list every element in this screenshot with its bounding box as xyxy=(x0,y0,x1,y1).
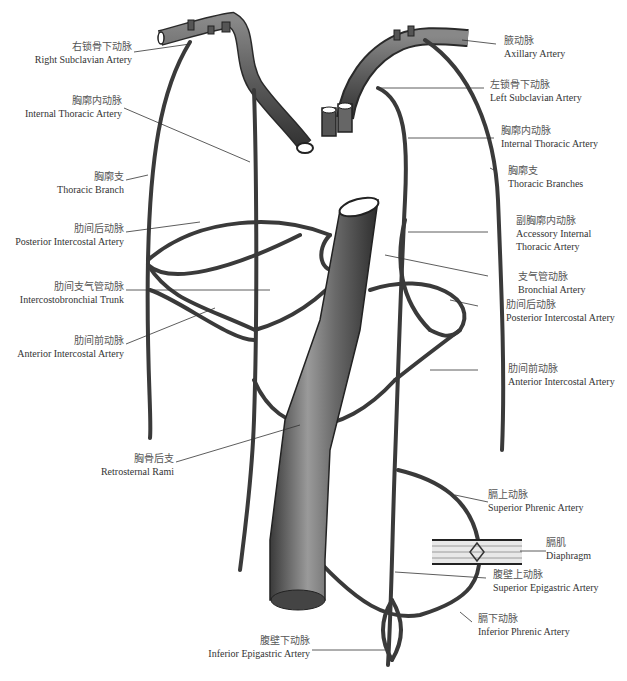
label-posterior-intercostal-artery-left: 肋间后动脉 Posterior Intercostal Artery xyxy=(0,222,124,248)
label-zh: 肋间支气管动脉 xyxy=(0,280,124,293)
label-left-subclavian-artery: 左锁骨下动脉 Left Subclavian Artery xyxy=(490,78,582,104)
label-en: Accessory Internal xyxy=(516,227,591,240)
label-zh: 右锁骨下动脉 xyxy=(18,40,132,53)
label-retrosternal-rami: 胸骨后支 Retrosternal Rami xyxy=(60,452,174,478)
label-en: Bronchial Artery xyxy=(518,283,585,296)
label-en: Superior Epigastric Artery xyxy=(493,581,599,594)
label-bronchial-artery: 支气管动脉 Bronchial Artery xyxy=(518,270,585,296)
label-anterior-intercostal-artery-left: 肋间前动脉 Anterior Intercostal Artery xyxy=(0,334,124,360)
label-zh: 腋动脉 xyxy=(504,34,565,47)
label-inferior-epigastric-artery: 腹壁下动脉 Inferior Epigastric Artery xyxy=(180,634,310,660)
label-zh: 胸廓内动脉 xyxy=(501,124,598,137)
label-en: Inferior Phrenic Artery xyxy=(478,625,570,638)
label-right-subclavian-artery: 右锁骨下动脉 Right Subclavian Artery xyxy=(18,40,132,66)
label-zh: 肋间后动脉 xyxy=(506,298,615,311)
label-inferior-phrenic-artery: 膈下动脉 Inferior Phrenic Artery xyxy=(478,612,570,638)
label-en-line2: Thoracic Artery xyxy=(516,240,591,253)
label-zh: 胸廓支 xyxy=(508,164,583,177)
label-zh: 腹壁上动脉 xyxy=(493,568,599,581)
label-en: Anterior Intercostal Artery xyxy=(508,375,615,388)
label-intercostobronchial-trunk: 肋间支气管动脉 Intercostobronchial Trunk xyxy=(0,280,124,306)
diaphragm-band xyxy=(432,540,522,564)
right-subclavian-vessel xyxy=(158,20,313,153)
label-en: Thoracic Branch xyxy=(20,183,124,196)
label-internal-thoracic-artery-left: 胸廓内动脉 Internal Thoracic Artery xyxy=(2,94,122,120)
label-en: Axillary Artery xyxy=(504,47,565,60)
label-zh: 腹壁下动脉 xyxy=(180,634,310,647)
label-zh: 支气管动脉 xyxy=(518,270,585,283)
label-en: Intercostobronchial Trunk xyxy=(0,293,124,306)
label-en: Retrosternal Rami xyxy=(60,465,174,478)
label-zh: 胸廓支 xyxy=(20,170,124,183)
label-zh: 肋间前动脉 xyxy=(0,334,124,347)
label-accessory-internal-thoracic-artery: 副胸廓内动脉 Accessory Internal Thoracic Arter… xyxy=(516,214,591,253)
label-anterior-intercostal-artery-right: 肋间前动脉 Anterior Intercostal Artery xyxy=(508,362,615,388)
left-subclavian-vessel xyxy=(322,26,468,136)
label-zh: 肋间后动脉 xyxy=(0,222,124,235)
aorta xyxy=(270,194,380,610)
label-zh: 膈肌 xyxy=(546,536,591,549)
label-zh: 副胸廓内动脉 xyxy=(516,214,591,227)
label-en: Superior Phrenic Artery xyxy=(488,501,584,514)
label-zh: 肋间前动脉 xyxy=(508,362,615,375)
label-en: Inferior Epigastric Artery xyxy=(180,647,310,660)
label-en: Anterior Intercostal Artery xyxy=(0,347,124,360)
label-en: Thoracic Branches xyxy=(508,177,583,190)
label-zh: 胸骨后支 xyxy=(60,452,174,465)
label-en: Internal Thoracic Artery xyxy=(501,137,598,150)
label-axillary-artery: 腋动脉 Axillary Artery xyxy=(504,34,565,60)
label-diaphragm: 膈肌 Diaphragm xyxy=(546,536,591,562)
label-zh: 胸廓内动脉 xyxy=(2,94,122,107)
label-en: Right Subclavian Artery xyxy=(18,53,132,66)
label-en: Left Subclavian Artery xyxy=(490,91,582,104)
label-en: Posterior Intercostal Artery xyxy=(0,235,124,248)
label-thoracic-branches: 胸廓支 Thoracic Branches xyxy=(508,164,583,190)
label-en: Posterior Intercostal Artery xyxy=(506,311,615,324)
label-en: Internal Thoracic Artery xyxy=(2,107,122,120)
label-thoracic-branch: 胸廓支 Thoracic Branch xyxy=(20,170,124,196)
label-zh: 左锁骨下动脉 xyxy=(490,78,582,91)
label-superior-epigastric-artery: 腹壁上动脉 Superior Epigastric Artery xyxy=(493,568,599,594)
label-zh: 膈上动脉 xyxy=(488,488,584,501)
label-posterior-intercostal-artery-right: 肋间后动脉 Posterior Intercostal Artery xyxy=(506,298,615,324)
label-superior-phrenic-artery: 膈上动脉 Superior Phrenic Artery xyxy=(488,488,584,514)
label-en: Diaphragm xyxy=(546,549,591,562)
label-zh: 膈下动脉 xyxy=(478,612,570,625)
label-internal-thoracic-artery-right: 胸廓内动脉 Internal Thoracic Artery xyxy=(501,124,598,150)
